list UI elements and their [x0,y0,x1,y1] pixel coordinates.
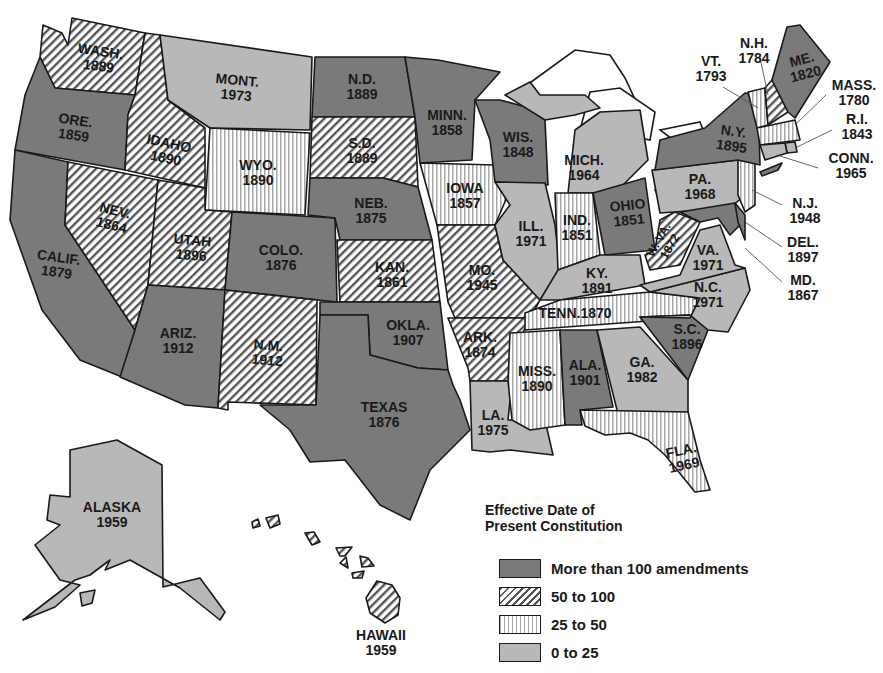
svg-text:MO.1945: MO.1945 [466,262,497,293]
legend-label: 50 to 100 [551,588,615,605]
state-hawaii [252,515,400,623]
svg-text:GA.1982: GA.1982 [626,354,657,385]
svg-text:N.H.1784: N.H.1784 [738,35,769,66]
svg-text:WIS.1848: WIS.1848 [502,129,533,160]
svg-text:COLO.1876: COLO.1876 [259,242,303,273]
svg-text:S.C.1896: S.C.1896 [671,321,702,352]
svg-text:ARK.1874: ARK.1874 [463,329,497,360]
swatch-vertical-stripes-icon [499,615,541,634]
us-constitution-map: WASH.1889 ORE.1859 CALIF.1879 IDAHO1890 … [0,0,883,673]
svg-text:OKLA.1907: OKLA.1907 [386,317,430,348]
svg-text:KAN.1861: KAN.1861 [375,259,409,290]
legend-items: More than 100 amendments 50 to 100 25 to… [499,554,749,666]
svg-text:OHIO1851: OHIO1851 [609,195,648,230]
svg-text:MD.1867: MD.1867 [787,272,818,303]
svg-text:ILL.1971: ILL.1971 [515,218,546,249]
svg-text:N.M.1912: N.M.1912 [251,336,285,370]
legend: Effective Date of Present Constitution M… [485,502,749,666]
svg-text:VT.1793: VT.1793 [695,53,726,84]
svg-text:MINN.1858: MINN.1858 [427,107,467,138]
svg-text:ALA.1901: ALA.1901 [569,357,602,388]
svg-text:NEB.1875: NEB.1875 [354,195,387,226]
svg-text:N.J.1948: N.J.1948 [789,195,820,226]
svg-text:MICH.1964: MICH.1964 [564,152,604,183]
legend-item-vertical: 25 to 50 [499,610,749,638]
svg-text:N.C.1971: N.C.1971 [692,279,723,310]
swatch-diagonal-hatch-icon [499,587,541,606]
svg-text:WYO.1890: WYO.1890 [239,157,276,188]
legend-label: 25 to 50 [551,616,607,633]
svg-text:CONN.1965: CONN.1965 [828,150,873,181]
svg-text:DEL.1897: DEL.1897 [787,234,819,265]
legend-title-line1: Effective Date of [485,502,749,518]
state-conn [760,143,787,160]
legend-title: Effective Date of Present Constitution [485,502,749,534]
legend-title-line2: Present Constitution [485,518,749,534]
svg-text:ORE.1859: ORE.1859 [56,110,94,145]
svg-text:HAWAII1959: HAWAII1959 [356,627,406,658]
svg-text:FLA.1969: FLA.1969 [664,439,701,476]
svg-text:ARIZ.1912: ARIZ.1912 [160,325,197,356]
legend-item-dark: More than 100 amendments [499,554,749,582]
svg-text:S.D.1889: S.D.1889 [346,135,377,166]
legend-item-diagonal: 50 to 100 [499,582,749,610]
svg-text:MISS.1890: MISS.1890 [518,363,556,394]
svg-text:N.D.1889: N.D.1889 [346,71,377,102]
state-alaska [23,440,225,620]
svg-text:MASS.1780: MASS.1780 [832,77,876,108]
svg-text:TENN.1870: TENN.1870 [538,305,611,321]
long-island [760,163,782,176]
svg-text:UTAH1896: UTAH1896 [172,230,212,264]
svg-text:PA.1968: PA.1968 [684,171,715,202]
swatch-light-icon [499,643,541,662]
legend-item-light: 0 to 25 [499,638,749,666]
swatch-dark-icon [499,559,541,578]
state-nj [738,160,755,212]
svg-text:R.I.1843: R.I.1843 [841,111,872,142]
svg-text:IOWA1857: IOWA1857 [446,180,483,211]
svg-text:IND.1851: IND.1851 [561,212,592,243]
legend-label: 0 to 25 [551,644,599,661]
legend-label: More than 100 amendments [551,560,749,577]
alaska-island [80,590,95,606]
svg-text:VA.1971: VA.1971 [692,242,723,273]
svg-text:LA.1975: LA.1975 [477,407,508,438]
